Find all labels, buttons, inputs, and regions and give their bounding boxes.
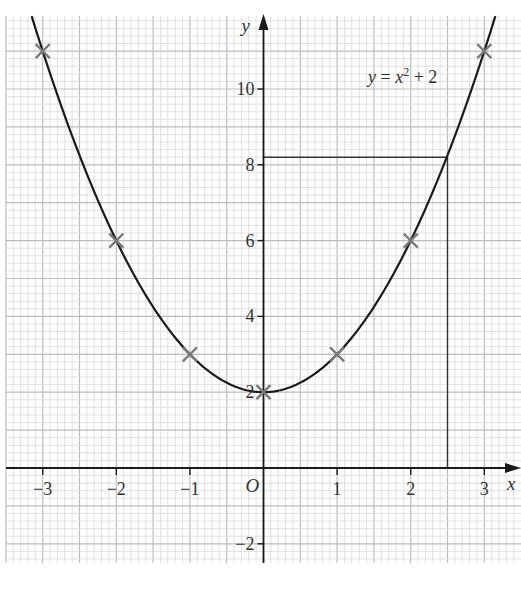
graph-of-quadratic: y x O y = x2 + 2 −3−2−1123−2246810 (0, 0, 521, 594)
y-tick-label: 10 (237, 79, 255, 99)
y-tick-label: 2 (246, 382, 255, 402)
x-tick-label: 3 (480, 479, 489, 499)
x-axis-label: x (506, 473, 516, 494)
y-tick-label: 8 (246, 155, 255, 175)
x-tick-label: −1 (180, 479, 199, 499)
y-tick-label: −2 (235, 534, 254, 554)
x-tick-label: −2 (107, 479, 126, 499)
reading-lines (264, 157, 448, 468)
origin-label: O (246, 475, 260, 496)
y-axis-label: y (240, 15, 251, 36)
y-tick-label: 6 (246, 231, 255, 251)
x-tick-label: −3 (33, 479, 52, 499)
x-tick-label: 2 (406, 479, 415, 499)
equation-label: y = x2 + 2 (366, 65, 437, 87)
x-tick-label: 1 (333, 479, 342, 499)
y-tick-label: 4 (246, 306, 255, 326)
